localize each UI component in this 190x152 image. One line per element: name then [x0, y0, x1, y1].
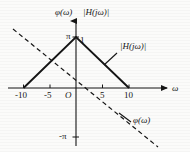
plot-canvas: [0, 0, 190, 152]
x-tick-label--5: -5: [44, 91, 52, 100]
origin-label: O: [65, 91, 72, 100]
y-tick-label-pi: π: [66, 32, 71, 41]
y-tick-label-neg-pi: -π: [59, 132, 67, 141]
x-tick-label--10: -10: [15, 91, 27, 100]
y-tick-label-one: 1: [80, 36, 85, 45]
y-axis-label-magnitude: |H(jω)|: [83, 8, 109, 17]
x-tick-label-10: 10: [124, 91, 133, 100]
x-tick-label-5: 5: [100, 91, 105, 100]
y-axis-label-phase: φ(ω): [55, 8, 72, 17]
curve-label-magnitude: |H(jω)|: [120, 42, 146, 51]
magnitude-label-leader: [104, 53, 117, 65]
figure-magnitude-phase-response: φ(ω) |H(jω)| ω π -π 1 -10 -5 O 5 10 |H(j…: [0, 0, 190, 152]
curve-label-phase: φ(ω): [133, 116, 150, 125]
x-axis-label-omega: ω: [172, 84, 178, 93]
